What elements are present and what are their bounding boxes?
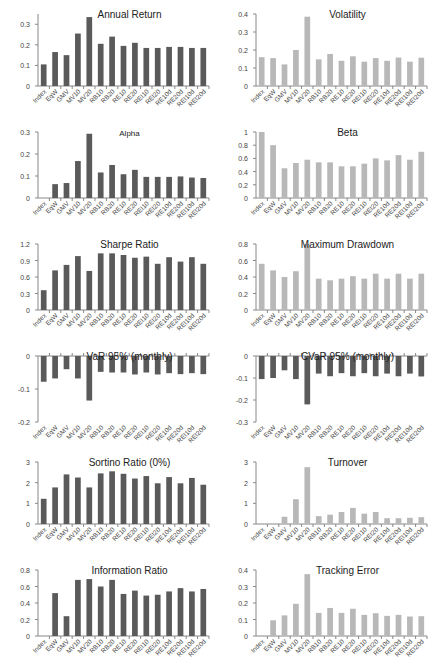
chart-svg: 00.20.40.60.8IndexEqWGMVMV10MV20RB10RB20… <box>0 556 217 668</box>
y-tick-label: 0.3 <box>20 129 30 136</box>
chart-title: Alpha <box>119 129 140 138</box>
bar <box>109 253 115 310</box>
bar <box>143 177 149 198</box>
bar <box>282 615 288 636</box>
chart-title: Maximum Drawdown <box>301 239 394 250</box>
bar <box>98 587 104 637</box>
bar <box>64 55 70 86</box>
bar-chart: 00.30.60.91.2IndexEqWGMVMV10MV20RB10RB20… <box>20 239 209 332</box>
bar <box>282 64 288 86</box>
y-tick-label: 0.1 <box>238 65 248 72</box>
bar <box>143 596 149 636</box>
bar <box>178 483 184 524</box>
bar <box>327 280 333 310</box>
y-tick-label: 0.1 <box>238 617 248 624</box>
y-tick-label: 1 <box>244 129 248 136</box>
y-tick-label: -0.2 <box>236 397 248 404</box>
bar <box>98 473 104 524</box>
bar <box>373 274 379 310</box>
bar <box>132 43 138 86</box>
bar <box>316 613 322 636</box>
bar <box>155 48 161 86</box>
bar <box>259 57 265 86</box>
bar <box>155 595 161 636</box>
bar <box>166 47 172 86</box>
y-tick-label: 0.9 <box>20 258 30 265</box>
bar <box>109 580 115 636</box>
chart-svg: 00.10.20.30.4IndexEqWGMVMV10MV20RB10RB20… <box>218 556 435 668</box>
bar <box>304 17 310 86</box>
bar <box>109 471 115 524</box>
bar <box>373 158 379 198</box>
bar <box>98 172 104 198</box>
chart-annual-return: 00.10.20.3IndexEqWGMVMV10MV20RB10RB20RE1… <box>0 0 217 122</box>
y-tick-label: 0 <box>244 307 248 314</box>
bar <box>293 271 299 310</box>
bar <box>316 59 322 86</box>
bar <box>64 474 70 524</box>
y-tick-label: 0.2 <box>238 600 248 607</box>
bar <box>121 46 127 86</box>
bar <box>396 58 402 86</box>
y-tick-label: 0.2 <box>20 42 30 49</box>
y-tick-label: 0.6 <box>20 584 30 591</box>
bar <box>316 162 322 198</box>
chart-volatility: 00.10.20.30.4IndexEqWGMVMV10MV20RB10RB20… <box>218 0 435 122</box>
y-tick-label: 0.6 <box>238 258 248 265</box>
bar <box>259 264 265 310</box>
y-tick-label: 0 <box>26 307 30 314</box>
chart-turnover: 0123IndexEqWGMVMV10MV20RB10RB20RE10RE20R… <box>218 448 435 560</box>
chart-title: CVaR 95% (monthly) <box>301 351 394 362</box>
bar <box>52 270 58 310</box>
bar-chart: 00.20.40.60.81IndexEqWGMVMV10MV20RB10RB2… <box>238 127 427 220</box>
bar <box>350 166 356 198</box>
bar <box>75 34 81 86</box>
y-tick-label: 0.3 <box>20 21 30 28</box>
bar <box>132 479 138 524</box>
bar <box>270 356 276 378</box>
bar <box>270 620 276 636</box>
bar <box>350 56 356 86</box>
bar <box>327 608 333 636</box>
bar <box>132 258 138 310</box>
bar <box>121 255 127 310</box>
y-tick-label: -0.3 <box>236 419 248 426</box>
bar <box>293 356 299 379</box>
bar <box>52 593 58 636</box>
bar <box>132 170 138 198</box>
bar <box>189 591 195 636</box>
bar <box>361 514 367 524</box>
chart-title: Tracking Error <box>316 565 380 576</box>
bar <box>339 279 345 310</box>
bar <box>407 518 413 524</box>
bar <box>155 177 161 198</box>
bar <box>121 474 127 524</box>
bar <box>75 161 81 198</box>
y-tick-label: 0.8 <box>20 567 30 574</box>
y-tick-label: -0.1 <box>18 386 30 393</box>
y-tick-label: 1 <box>244 500 248 507</box>
bar <box>339 166 345 198</box>
y-tick-label: 0 <box>26 633 30 640</box>
bar <box>384 518 390 524</box>
chart-sortino-ratio: 0123IndexEqWGMVMV10MV20RB10RB20RE10RE20R… <box>0 448 217 560</box>
y-tick-label: 3 <box>244 459 248 466</box>
chart-tracking-error: 00.10.20.30.4IndexEqWGMVMV10MV20RB10RB20… <box>218 556 435 668</box>
bar <box>361 615 367 636</box>
y-tick-label: -0.2 <box>18 419 30 426</box>
bar-chart: 00.10.20.30.4IndexEqWGMVMV10MV20RB10RB20… <box>238 9 427 108</box>
bar-chart: -0.2-0.10IndexEqWGMVMV10MV20RB10RB20RE10… <box>18 351 209 444</box>
bar <box>418 616 424 636</box>
bar <box>178 588 184 636</box>
bar-chart: 00.10.20.3IndexEqWGMVMV10MV20RB10RB20RE1… <box>20 9 209 108</box>
bar <box>189 478 195 524</box>
y-tick-label: 0 <box>26 195 30 202</box>
chart-svg: 00.20.40.60.81IndexEqWGMVMV10MV20RB10RB2… <box>218 118 435 230</box>
bar <box>64 183 70 198</box>
y-tick-label: 0 <box>244 83 248 90</box>
bar <box>41 356 47 382</box>
y-tick-label: 0 <box>244 521 248 528</box>
y-tick-label: 1 <box>26 500 30 507</box>
bar <box>384 61 390 86</box>
bar <box>396 615 402 636</box>
